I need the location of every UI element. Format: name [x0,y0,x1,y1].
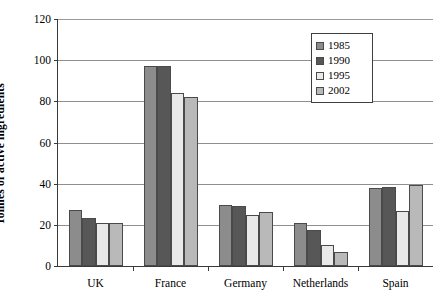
legend-swatch-icon [316,87,324,95]
bar-group [369,19,423,266]
y-tick-label: 0 [45,260,51,272]
x-tick-mark [283,266,284,271]
plot-area: 020406080100120 UKFranceGermanyNetherlan… [57,19,433,267]
bar-group [144,19,198,266]
bar [184,97,198,266]
legend-item-label: 1985 [328,40,350,51]
bar [409,185,423,266]
y-tick-label: 120 [34,13,51,25]
bar [219,205,233,266]
bar [369,188,383,266]
bar [109,223,123,266]
legend-item-label: 2002 [328,85,350,96]
x-tick-label: Spain [382,277,408,289]
y-tick-label: 40 [40,178,52,190]
y-axis-title: Tonnes of active ingredients [0,0,42,308]
bar-group [219,19,273,266]
bar [259,212,273,266]
bar [82,218,96,266]
legend-item-label: 1990 [328,55,350,66]
bar [294,223,308,266]
y-tick-mark [54,266,58,267]
legend-swatch-icon [316,42,324,50]
legend-item: 2002 [316,83,367,98]
bar [232,206,246,266]
bar [396,211,410,266]
legend-swatch-icon [316,72,324,80]
legend-item: 1985 [316,38,367,53]
bar [307,230,321,266]
bar [157,66,171,266]
x-tick-label: France [155,277,186,289]
x-tick-mark [133,266,134,271]
y-tick-label: 20 [40,219,52,231]
bar [334,252,348,266]
bar [321,245,335,266]
bar [96,223,110,266]
legend-item: 1990 [316,53,367,68]
y-tick-label: 80 [40,95,52,107]
x-tick-label: Germany [224,277,267,289]
bar [246,215,260,266]
legend-swatch-icon [316,57,324,65]
legend: 1985199019952002 [311,33,373,103]
bar [171,93,185,266]
bar-group [69,19,123,266]
y-tick-label: 100 [34,54,51,66]
bar [69,210,83,266]
bar [382,187,396,266]
x-tick-mark [358,266,359,271]
legend-item: 1995 [316,68,367,83]
x-tick-label: UK [87,277,104,289]
legend-item-label: 1995 [328,70,350,81]
bar [144,66,158,266]
bars-layer [58,19,433,266]
bar-chart: Tonnes of active ingredients 02040608010… [0,0,446,308]
x-tick-mark [208,266,209,271]
x-tick-label: Netherlands [293,277,349,289]
y-tick-label: 60 [40,137,52,149]
